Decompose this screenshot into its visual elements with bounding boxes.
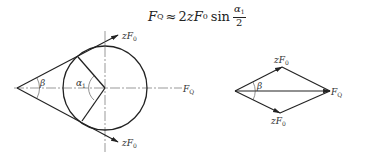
left-upper-force-label: zF0 [121,31,137,42]
right-resultant-label: FQ [330,87,342,98]
right-upper-parallel [282,67,330,91]
left-alpha-label: α1 [76,78,86,89]
lower-radius [82,88,105,121]
right-figure: zF0 zF0 FQ β [235,55,342,127]
right-lower-parallel [280,91,330,113]
left-resultant-label: FQ [182,84,194,95]
right-lower-force-vector [235,91,280,113]
diagram-canvas: zF0 zF0 FQ β α1 zF0 zF0 FQ β [0,0,365,155]
right-upper-force-label: zF0 [273,55,289,66]
left-beta-label: β [39,78,45,88]
left-lower-force-label: zF0 [121,138,137,149]
right-lower-force-label: zF0 [270,116,286,127]
upper-belt-line [17,35,118,88]
lower-belt-line [17,88,118,142]
right-beta-label: β [256,81,262,91]
left-figure: zF0 zF0 FQ β α1 [14,31,194,152]
